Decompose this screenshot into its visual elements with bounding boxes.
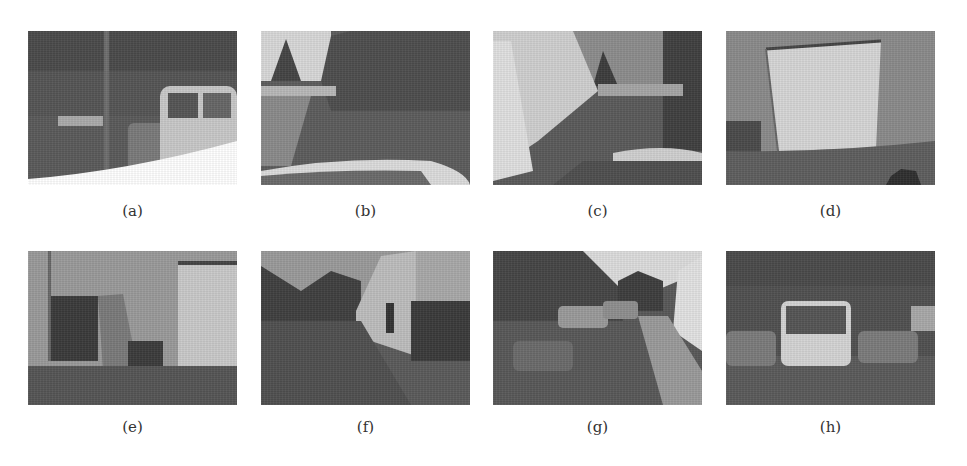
panel-d-image [726,31,935,185]
panel-c-caption: (c) [493,202,702,220]
panel-a-image [28,31,237,185]
panel-g-caption: (g) [493,418,702,436]
panel-c-image [493,31,702,185]
panel-g-image [493,251,702,405]
panel-h-caption: (h) [726,418,935,436]
panel-d-caption: (d) [726,202,935,220]
panel-e-caption: (e) [28,418,237,436]
panel-e-image [28,251,237,405]
panel-f-image [261,251,470,405]
panel-f-caption: (f) [261,418,470,436]
panel-b-caption: (b) [261,202,470,220]
panel-a-caption: (a) [28,202,237,220]
panel-b-image [261,31,470,185]
panel-h-image [726,251,935,405]
